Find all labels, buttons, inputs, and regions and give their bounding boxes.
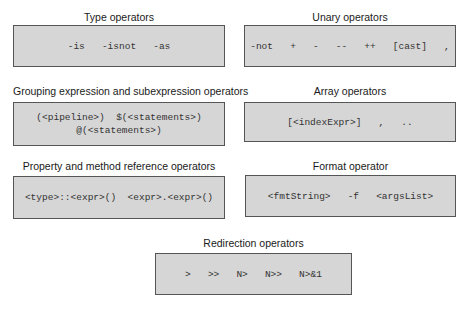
array-operators-box: [<indexExpr>] , .. [244,102,456,142]
grouping-operators-title: Grouping expression and subexpression op… [13,85,225,97]
unary-operators-box: -not + - -- ++ [cast] , [244,25,456,67]
array-operators-group: Array operators [<indexExpr>] , .. [244,83,456,143]
property-operators-box: <type>::<expr>() <expr>.<expr>() [13,176,225,219]
grouping-operators-box: (<pipeline>) $(<statements>) @(<statemen… [13,102,225,146]
array-operators-title: Array operators [244,85,456,97]
type-operators-text: -is -isnot -as [68,40,171,53]
redirection-operators-title: Redirection operators [155,237,352,249]
format-operator-text: <fmtString> -f <argsList> [268,190,433,203]
redirection-operators-text: > >> N> N>> N>&1 [185,268,322,281]
property-operators-text: <type>::<expr>() <expr>.<expr>() [25,191,213,204]
redirection-operators-box: > >> N> N>> N>&1 [155,253,352,295]
unary-operators-title: Unary operators [244,11,456,23]
grouping-operators-text-line1: (<pipeline>) $(<statements>) [36,111,201,124]
grouping-operators-group: Grouping expression and subexpression op… [13,83,225,147]
grouping-operators-text-line2: @(<statements>) [76,124,162,137]
format-operator-box: <fmtString> -f <argsList> [245,175,456,217]
type-operators-box: -is -isnot -as [13,25,225,67]
type-operators-title: Type operators [13,11,225,23]
array-operators-text: [<indexExpr>] , .. [287,116,412,129]
property-operators-title: Property and method reference operators [13,160,225,172]
format-operator-title: Format operator [245,160,456,172]
format-operator-group: Format operator <fmtString> -f <argsList… [245,158,456,218]
type-operators-group: Type operators -is -isnot -as [13,8,225,68]
unary-operators-group: Unary operators -not + - -- ++ [cast] , [244,8,456,68]
redirection-operators-group: Redirection operators > >> N> N>> N>&1 [155,235,352,297]
unary-operators-text: -not + - -- ++ [cast] , [250,40,450,53]
property-operators-group: Property and method reference operators … [13,158,225,220]
